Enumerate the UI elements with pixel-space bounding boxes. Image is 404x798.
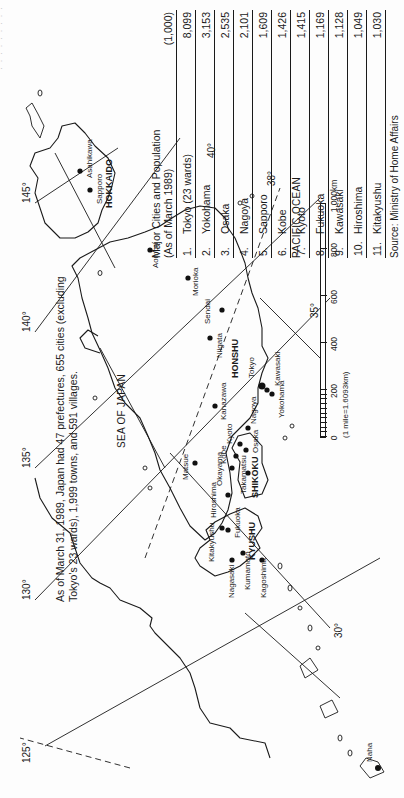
svg-text:Matsue: Matsue <box>181 453 190 480</box>
svg-text:Kitakyushu: Kitakyushu <box>207 523 216 562</box>
svg-text:Hiroshima: Hiroshima <box>209 481 218 518</box>
svg-text:Fukuoka: Fukuoka <box>233 507 242 538</box>
svg-text:Yokohama: Yokohama <box>277 380 286 418</box>
label-lon-145: 145° <box>21 182 32 203</box>
svg-text:Asahikawa: Asahikawa <box>85 139 94 178</box>
city-dot-kitakyushu <box>219 525 224 530</box>
city-dot-sendai <box>219 307 224 312</box>
scale-label-200: 200 <box>329 384 339 398</box>
label-lon-140: 140° <box>21 311 32 332</box>
table-row: 8.Fukuoka1,169 <box>310 10 329 258</box>
svg-text:Niigata: Niigata <box>215 333 224 358</box>
svg-text:Kanazawa: Kanazawa <box>219 382 228 420</box>
svg-text:Sendai: Sendai <box>203 299 212 324</box>
city-dot-osaka <box>243 447 248 452</box>
latitude-30-ext <box>245 613 340 698</box>
svg-text:Nagoya: Nagoya <box>249 396 258 424</box>
svg-text:Sapporo: Sapporo <box>95 173 104 204</box>
table-row: 2.Yokohama3,153 <box>196 10 215 258</box>
table-row: 9.Kawasaki1,128 <box>329 10 348 258</box>
svg-text:Okayama: Okayama <box>215 451 224 486</box>
scale-mile-note: (1 mile=1.6093km) <box>341 372 350 438</box>
svg-text:Naha: Naha <box>365 742 374 762</box>
city-dot-naha <box>375 765 381 771</box>
city-dot-kanazawa <box>212 403 217 408</box>
city-dot-matsue <box>192 460 197 465</box>
svg-text:Kagoshima: Kagoshima <box>259 557 268 598</box>
scale-tick-200 <box>321 389 327 390</box>
city-dot-sapporo <box>87 187 92 192</box>
city-dot-asahikawa <box>77 168 82 173</box>
kuril-islands <box>26 103 44 138</box>
svg-text:Morioka: Morioka <box>191 267 200 296</box>
scale-label-600: 600 <box>329 290 339 304</box>
hokkaido-label: HOKKAIDO <box>104 159 114 208</box>
city-dot-nagoya <box>245 425 250 430</box>
label-lon-125: 125° <box>21 742 32 763</box>
table-title-line1: Major Cities and Population <box>150 10 162 258</box>
scale-label-400: 400 <box>329 337 339 351</box>
city-dot-morioka <box>185 275 190 280</box>
svg-text:Tokyo: Tokyo <box>247 357 256 378</box>
longitude-125-grid <box>45 558 380 746</box>
table-row: 7.Kyoto1,415 <box>291 10 310 258</box>
noto-peninsula <box>80 330 100 353</box>
table-row: 10.Hiroshima1,049 <box>348 10 367 258</box>
svg-text:Kumamoto: Kumamoto <box>243 551 252 590</box>
label-lon-130: 130° <box>21 579 32 600</box>
table-row: 5.Sapporo1,609 <box>253 10 272 258</box>
administrative-note: As of March 31, 1989, Japan had 47 prefe… <box>54 272 80 602</box>
honshu-label: HONSHU <box>230 339 240 378</box>
longitude-125-line <box>20 738 130 768</box>
label-lat-35: 35° <box>309 303 320 318</box>
city-dot-tokyo <box>259 383 266 390</box>
svg-text:Takamatsu: Takamatsu <box>239 455 248 494</box>
table-row: 11.Kitakyushu1,030 <box>367 10 386 258</box>
city-dot-yokohama <box>269 391 274 396</box>
label-lat-30: 30° <box>333 623 344 638</box>
scale-tick-600 <box>321 295 327 296</box>
table-row: 6.Kobe1,426 <box>272 10 291 258</box>
scale-label-0: 0 <box>329 436 339 441</box>
sea-of-japan-label: SEA OF JAPAN <box>116 374 127 448</box>
city-dot-kobe <box>233 453 238 458</box>
table-unit: (1,000) <box>162 10 174 45</box>
scale-tick-400 <box>321 342 327 343</box>
table-row: 4.Nagoya2,101 <box>234 10 253 258</box>
table-row: 1.Tokyo (23 wards)8,099 <box>177 10 196 258</box>
table-source: Source: Ministry of Home Affairs <box>389 10 400 258</box>
city-dot-kawasaki <box>264 387 269 392</box>
scale-fine-ticks <box>321 390 327 437</box>
latitude-35-line-w <box>100 348 165 468</box>
label-lon-135: 135° <box>21 447 32 468</box>
city-dot-nagasaki <box>229 557 234 562</box>
city-dot-niigata <box>207 335 212 340</box>
table-title-line2: (As of March 1989) <box>162 169 174 258</box>
svg-text:Kyoto: Kyoto <box>225 423 234 444</box>
major-cities-table: Major Cities and Population (As of March… <box>150 10 400 258</box>
svg-text:Osaka: Osaka <box>251 429 260 453</box>
population-table: 1.Tokyo (23 wards)8,099 2.Yokohama3,153 … <box>176 10 386 258</box>
svg-text:Nagasaki: Nagasaki <box>227 564 236 598</box>
map-page: · · · · · · · · · <box>0 0 404 798</box>
city-dot-hiroshima <box>225 492 230 497</box>
table-row: 3.Osaka2,535 <box>215 10 234 258</box>
city-dot-kyoto <box>237 441 242 446</box>
city-dot-okayama <box>229 465 234 470</box>
city-dot-fukuoka <box>225 527 230 532</box>
shikoku-label: SHIKOKU <box>250 456 260 498</box>
